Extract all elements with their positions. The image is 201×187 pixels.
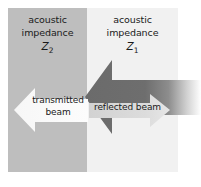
incident-beam-arrow: [85, 60, 201, 134]
diagram-canvas: acoustic impedance Z2 acoustic impedance…: [0, 0, 201, 187]
transmitted-beam-arrow: [14, 88, 88, 132]
arrow-layer: [0, 0, 201, 187]
